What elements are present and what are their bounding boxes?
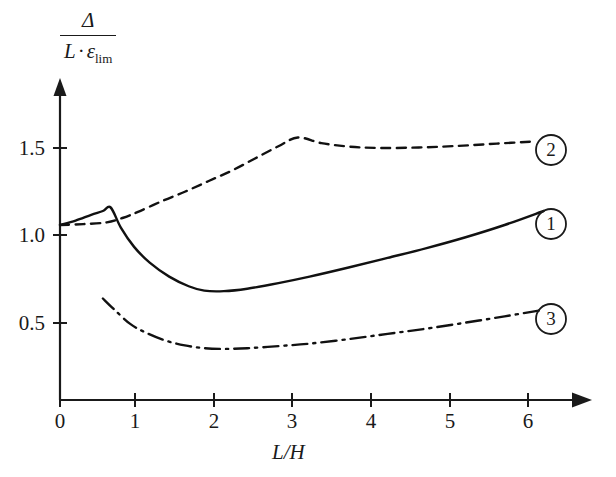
y-tick-label-1.5: 1.5 [0, 136, 45, 161]
curve-label-3: 3 [534, 302, 568, 336]
y-tick-label-0.5: 0.5 [0, 311, 45, 336]
x-axis-title: L/H [272, 440, 305, 465]
x-tick-label-3: 3 [276, 409, 308, 434]
x-tick-label-0: 0 [44, 409, 76, 434]
plot-area [0, 0, 616, 477]
y-axis-arrowhead [54, 78, 67, 96]
x-tick-label-1: 1 [119, 409, 151, 434]
curve-3 [103, 299, 540, 349]
y-tick-label-1.0: 1.0 [0, 223, 45, 248]
curve-group [60, 137, 544, 348]
curve-2 [60, 137, 536, 225]
x-tick-label-4: 4 [355, 409, 387, 434]
curve-1 [60, 207, 544, 292]
x-tick-label-2: 2 [198, 409, 230, 434]
x-axis-arrowhead [572, 393, 592, 408]
curve-label-1: 1 [534, 207, 568, 241]
x-tick-label-5: 5 [434, 409, 466, 434]
curve-label-2: 2 [534, 133, 568, 167]
chart-container: Δ L·εlim [0, 0, 616, 477]
x-tick-label-6: 6 [512, 409, 544, 434]
